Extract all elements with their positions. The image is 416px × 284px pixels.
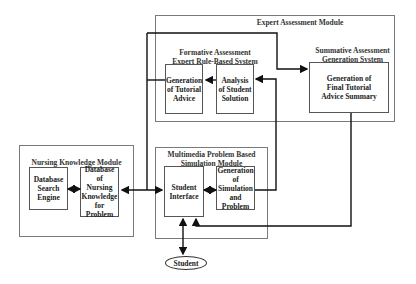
connector-lines — [0, 0, 416, 284]
